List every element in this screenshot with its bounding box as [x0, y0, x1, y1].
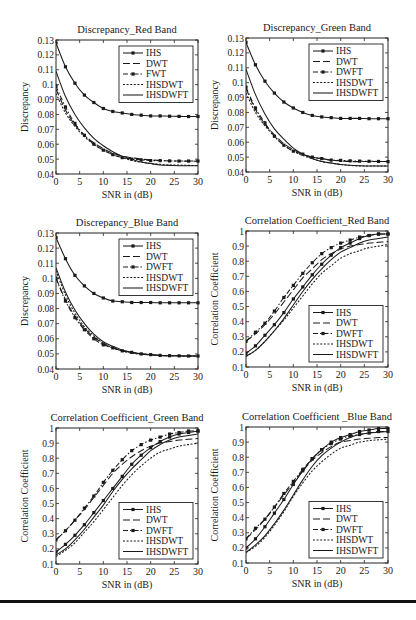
- legend: IHSDWTDWFTIHSDWTIHSDWFT: [309, 44, 383, 101]
- svg-text:20: 20: [146, 176, 156, 187]
- legend-entry-dwt: DWT: [336, 514, 358, 524]
- chart-discrepancy-red: Discrepancy_Red Band0510152025300.040.05…: [0, 8, 208, 204]
- legend-entry-ihsdwt: IHSDWT: [336, 535, 373, 545]
- legend-entry-dwt: DWT: [146, 59, 168, 69]
- svg-text:0.1: 0.1: [232, 78, 244, 88]
- svg-text:0.5: 0.5: [42, 499, 54, 509]
- svg-text:0.1: 0.1: [232, 559, 244, 569]
- svg-text:0.8: 0.8: [232, 257, 244, 267]
- svg-text:0.08: 0.08: [227, 108, 244, 118]
- svg-text:5: 5: [267, 174, 272, 185]
- svg-text:0.3: 0.3: [232, 332, 244, 342]
- legend-entry-dwft: DWFT: [336, 67, 363, 77]
- legend-entry-ihs: IHS: [146, 505, 161, 515]
- svg-text:1: 1: [239, 227, 244, 237]
- svg-text:0.04: 0.04: [37, 170, 54, 180]
- svg-text:0.2: 0.2: [232, 543, 244, 553]
- svg-text:10: 10: [288, 369, 298, 380]
- svg-text:5: 5: [267, 369, 272, 380]
- svg-text:0: 0: [244, 369, 249, 380]
- chart-title: Correlation Coefficient_Green Band: [50, 412, 204, 423]
- svg-text:0.1: 0.1: [42, 80, 54, 90]
- chart-svg: Discrepancy_Red Band0510152025300.040.05…: [0, 8, 208, 204]
- legend-entry-ihsdwft: IHSDWFT: [336, 350, 378, 360]
- legend-entry-ihs: IHS: [146, 48, 161, 58]
- x-axis-label: SNR in (dB): [292, 187, 343, 199]
- svg-text:10: 10: [288, 174, 298, 185]
- svg-text:0.2: 0.2: [232, 347, 244, 357]
- svg-text:0.2: 0.2: [42, 544, 54, 554]
- x-axis-label: SNR in (dB): [102, 579, 153, 591]
- chart-svg: Correlation Coefficient_Red Band05101520…: [190, 199, 416, 397]
- svg-text:0.13: 0.13: [37, 36, 54, 46]
- chart-discrepancy-blue: Discrepancy_Blue Band0510152025300.040.0…: [0, 201, 208, 399]
- svg-text:0.7: 0.7: [42, 469, 54, 479]
- svg-text:10: 10: [98, 566, 108, 577]
- svg-text:0.8: 0.8: [232, 453, 244, 463]
- svg-text:15: 15: [122, 176, 132, 187]
- svg-text:0.09: 0.09: [227, 93, 244, 103]
- figure: Discrepancy_Red Band0510152025300.040.05…: [0, 0, 416, 620]
- legend-entry-dwt: DWT: [146, 252, 168, 262]
- y-axis-label: Correlation Coefficient: [19, 449, 30, 542]
- chart-correlation-blue: Correlation Coefficient _Blue Band051015…: [190, 395, 416, 593]
- svg-text:0.06: 0.06: [37, 334, 54, 344]
- svg-text:30: 30: [383, 174, 393, 185]
- chart-correlation-red: Correlation Coefficient_Red Band05101520…: [190, 199, 416, 397]
- svg-text:0.11: 0.11: [38, 259, 55, 269]
- svg-text:20: 20: [336, 174, 346, 185]
- svg-text:25: 25: [169, 176, 179, 187]
- svg-text:20: 20: [146, 371, 156, 382]
- svg-text:0.11: 0.11: [228, 63, 245, 73]
- svg-text:5: 5: [77, 176, 82, 187]
- svg-text:0.3: 0.3: [42, 529, 54, 539]
- svg-text:30: 30: [383, 565, 393, 576]
- svg-text:0.12: 0.12: [37, 244, 54, 254]
- series-line-ihsdwt: [56, 94, 198, 166]
- svg-text:0.6: 0.6: [232, 287, 244, 297]
- legend: IHSDWTDWFTIHSDWTIHSDWFT: [119, 503, 193, 560]
- svg-text:0.1: 0.1: [42, 560, 54, 570]
- legend-entry-dwt: DWT: [336, 318, 358, 328]
- svg-text:0.05: 0.05: [37, 155, 54, 165]
- legend: IHSDWTDWFTIHSDWTIHSDWFT: [309, 306, 383, 363]
- svg-text:0.04: 0.04: [37, 365, 54, 375]
- svg-text:0.11: 0.11: [38, 65, 55, 75]
- svg-text:15: 15: [122, 566, 132, 577]
- x-axis-label: SNR in (dB): [102, 189, 153, 201]
- svg-text:0.4: 0.4: [232, 513, 244, 523]
- svg-text:0.4: 0.4: [232, 317, 244, 327]
- legend-entry-ihsdwft: IHSDWFT: [336, 546, 378, 556]
- chart-title: Discrepancy_Green Band: [263, 22, 372, 33]
- svg-text:30: 30: [383, 369, 393, 380]
- svg-text:20: 20: [146, 566, 156, 577]
- svg-text:15: 15: [312, 565, 322, 576]
- x-axis-label: SNR in (dB): [102, 384, 153, 396]
- svg-text:0.05: 0.05: [227, 153, 244, 163]
- svg-text:0.7: 0.7: [232, 468, 244, 478]
- legend-entry-dwft: DWFT: [146, 526, 173, 536]
- y-axis-label: Correlation Coefficient: [209, 448, 220, 541]
- legend-entry-ihsdwt: IHSDWT: [146, 273, 183, 283]
- chart-title: Correlation Coefficient_Red Band: [245, 215, 390, 226]
- chart-title: Correlation Coefficient _Blue Band: [242, 411, 393, 422]
- svg-text:0.5: 0.5: [232, 302, 244, 312]
- svg-text:10: 10: [98, 176, 108, 187]
- svg-text:0.13: 0.13: [37, 229, 54, 239]
- svg-text:0.12: 0.12: [227, 48, 244, 58]
- legend: IHSDWTDWFTIHSDWTIHSDWFT: [309, 502, 383, 559]
- svg-text:25: 25: [169, 566, 179, 577]
- legend-entry-ihs: IHS: [336, 308, 351, 318]
- svg-text:0: 0: [54, 176, 59, 187]
- svg-text:25: 25: [169, 371, 179, 382]
- svg-text:0.6: 0.6: [232, 483, 244, 493]
- legend: IHSDWTFWTIHSDWTIHSDWFT: [119, 46, 193, 103]
- svg-text:15: 15: [312, 174, 322, 185]
- svg-text:0.1: 0.1: [232, 363, 244, 373]
- svg-text:5: 5: [77, 371, 82, 382]
- chart-discrepancy-green: Discrepancy_Green Band0510152025300.040.…: [190, 6, 416, 202]
- svg-text:1: 1: [239, 423, 244, 433]
- series-line-ihsdwt: [246, 93, 388, 166]
- svg-text:5: 5: [267, 565, 272, 576]
- svg-text:0.3: 0.3: [232, 528, 244, 538]
